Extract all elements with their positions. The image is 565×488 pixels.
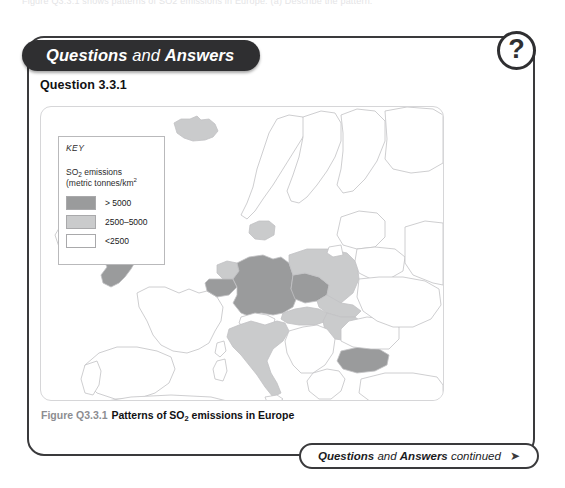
figure-caption-text: Patterns of SO2 emissions in Europe [112,409,295,421]
map-country-france [137,287,223,353]
map-country-denmark [249,221,275,240]
map-country-corsica [215,341,226,357]
figure-caption-text-post: emissions in Europe [189,409,295,421]
key-legend-rows: > 5000 2500–5000 <2500 [66,196,157,248]
header-title-conjunction: and [128,46,165,64]
key-subtitle-post: emissions [82,167,122,177]
map-country-greece [307,369,345,399]
question-mark-icon: ? [497,31,536,70]
key-label-mid: 2500–5000 [105,217,148,227]
figure-caption-number: Figure Q3.3.1 [41,409,108,421]
figure-caption-subscript: 2 [184,414,188,423]
map-country-sardinia [213,359,227,381]
map-country-iceland [174,116,218,141]
footer-text-continued: continued [448,450,501,462]
map-country-russia-northwest [385,107,443,173]
map-country-finland [337,109,385,193]
key-subtitle-units-sup: 2 [134,177,137,183]
key-subtitle-units-pre: (metric tonnes/km [66,178,134,188]
key-legend-item: 2500–5000 [66,215,157,229]
key-legend-item: > 5000 [66,196,157,210]
question-number-heading: Question 3.3.1 [40,78,127,92]
page-root: Figure Q3.3.1 shows patterns of SO2 emis… [0,0,565,488]
map-key-box: KEY SO2 emissions (metric tonnes/km2 > 5… [58,136,165,265]
map-country-bulgaria [337,347,389,373]
key-label-high: > 5000 [105,198,131,208]
key-subtitle-pre: SO [66,167,78,177]
footer-text-part-1: Questions [318,450,374,462]
key-subtitle-subscript: 2 [78,171,82,178]
map-country-belarus [355,247,405,279]
arrow-right-icon: ➤ [510,450,520,462]
questions-answers-header-pill: Questions and Answers [22,40,260,71]
figure-caption: Figure Q3.3.1Patterns of SO2 emissions i… [41,409,294,421]
map-country-turkey [359,373,443,401]
header-title-part-2: Answers [165,46,234,64]
key-title: KEY [66,143,157,153]
key-swatch-mid [66,215,96,229]
map-country-sicily [265,395,283,401]
questions-answers-continued-pill[interactable]: Questions and Answers continued ➤ [299,443,539,469]
page-top-cutoff-text: Figure Q3.3.1 shows patterns of SO2 emis… [0,0,565,10]
footer-text-part-2: Answers [400,450,448,462]
map-country-italy [227,321,289,397]
question-mark-glyph: ? [508,36,525,63]
footer-text: Questions and Answers continued [318,450,501,462]
map-country-germany [233,255,297,317]
map-country-baltic-states [337,211,385,249]
key-label-low: <2500 [105,236,129,246]
key-swatch-high [66,196,96,210]
key-subtitle: SO2 emissions (metric tonnes/km2 [66,167,157,189]
top-cutoff-text-line: Figure Q3.3.1 shows patterns of SO2 emis… [22,0,565,6]
key-swatch-low [66,234,96,248]
figure-caption-text-pre: Patterns of SO [112,409,185,421]
figure-frame: KEY SO2 emissions (metric tonnes/km2 > 5… [40,106,444,401]
map-country-russia-west [405,221,443,285]
key-legend-item: <2500 [66,234,157,248]
header-title-part-1: Questions [46,46,128,64]
map-country-former-yugoslavia [285,325,335,373]
header-title: Questions and Answers [46,46,234,65]
footer-text-conjunction: and [374,450,400,462]
